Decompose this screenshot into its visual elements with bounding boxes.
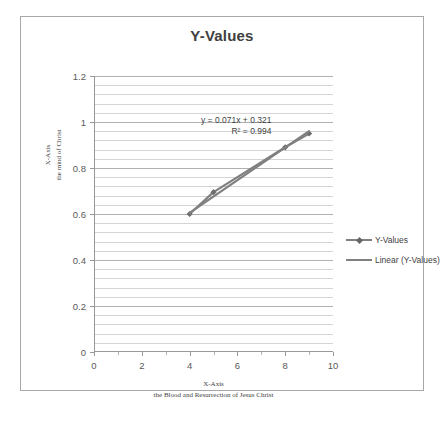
x-axis-title-line2: the Blood and Resurrection of Jesus Chri… xyxy=(94,390,333,401)
y-axis-tick-label: 1.2 xyxy=(73,71,86,82)
legend-marker-diamond-icon xyxy=(346,235,372,245)
trendline-equation-annotation: y = 0.071x + 0.321 R² = 0.994 xyxy=(201,115,271,138)
y-axis-tick-label: 0.6 xyxy=(73,209,86,220)
chart-title: Y-Values xyxy=(21,27,423,44)
equation-text: y = 0.071x + 0.321 xyxy=(201,115,271,126)
x-axis-tick-label: 4 xyxy=(187,360,192,371)
x-axis-tick-mark xyxy=(285,352,286,356)
y-axis-tick-label: 0.2 xyxy=(73,301,86,312)
x-axis-tick-label: 8 xyxy=(283,360,288,371)
x-axis-title-line1: X-Axis xyxy=(94,379,333,390)
x-axis-tick-label: 0 xyxy=(91,360,96,371)
y-axis-tick-label: 1 xyxy=(81,117,86,128)
chart-legend: Y-ValuesLinear (Y-Values) xyxy=(346,230,440,270)
y-axis-title-line1: X-Axis xyxy=(43,105,54,205)
y-axis-title-line2: the mind of Christ xyxy=(54,105,65,205)
x-axis-tick-mark xyxy=(142,352,143,356)
x-axis-tick-mark xyxy=(94,352,95,356)
x-axis-tick-mark-minor xyxy=(309,352,310,355)
y-axis-tick-label: 0.4 xyxy=(73,255,86,266)
chart-frame: Y-Values X-Axis the mind of Christ 00.20… xyxy=(20,16,424,391)
x-axis-tick-label: 10 xyxy=(328,360,339,371)
legend-label: Linear (Y-Values) xyxy=(375,256,440,265)
x-axis-tick-mark xyxy=(237,352,238,356)
y-axis-tick-label: 0.8 xyxy=(73,163,86,174)
x-axis-tick-label: 6 xyxy=(235,360,240,371)
legend-label: Y-Values xyxy=(375,236,408,245)
legend-marker-line-icon xyxy=(346,255,372,265)
x-axis-tick-mark xyxy=(333,352,334,356)
y-axis-tick-label: 0 xyxy=(81,347,86,358)
x-axis-tick-label: 2 xyxy=(139,360,144,371)
x-axis-tick-mark-minor xyxy=(166,352,167,355)
r-squared-text: R² = 0.994 xyxy=(201,126,271,137)
x-axis-tick-mark xyxy=(190,352,191,356)
plot-area: 00.20.40.60.811.2 0246810 y = 0.071x + 0… xyxy=(94,76,333,352)
legend-item[interactable]: Y-Values xyxy=(346,230,440,250)
y-axis-title: X-Axis the mind of Christ xyxy=(43,105,64,205)
x-axis-tick-mark-minor xyxy=(214,352,215,355)
x-axis-tick-mark-minor xyxy=(118,352,119,355)
x-axis-title: X-Axis the Blood and Resurrection of Jes… xyxy=(94,379,333,401)
x-axis-tick-mark-minor xyxy=(261,352,262,355)
trendline-path xyxy=(190,131,310,213)
legend-item[interactable]: Linear (Y-Values) xyxy=(346,250,440,270)
